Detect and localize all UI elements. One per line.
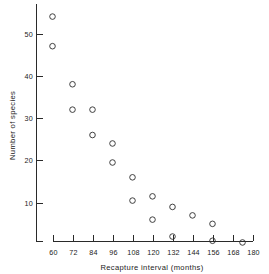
x-tick-label: 60 xyxy=(49,248,57,257)
data-point xyxy=(110,160,116,166)
y-tick-label: 30 xyxy=(25,114,33,123)
y-tick-label: 10 xyxy=(25,199,33,208)
data-point xyxy=(210,221,216,227)
plot-area: 1020304050 Number of species 60728496108… xyxy=(0,0,269,274)
x-tick-label: 96 xyxy=(109,248,117,257)
data-point xyxy=(70,81,76,87)
y-axis-line xyxy=(37,4,44,242)
x-tick-label: 72 xyxy=(69,248,77,257)
data-point xyxy=(210,238,216,244)
data-point xyxy=(50,43,56,49)
y-tick-label: 20 xyxy=(25,156,33,165)
data-point xyxy=(150,194,156,200)
data-point xyxy=(50,14,56,20)
x-tick-label: 120 xyxy=(147,248,160,257)
data-point xyxy=(90,107,96,113)
y-axis: 1020304050 Number of species xyxy=(8,4,43,242)
x-tick-label: 84 xyxy=(89,248,97,257)
data-point xyxy=(190,213,196,219)
data-point xyxy=(70,107,76,113)
y-tick-label: 50 xyxy=(25,30,33,39)
data-point xyxy=(110,141,116,147)
data-point xyxy=(130,175,136,181)
data-point xyxy=(90,132,96,138)
y-tick-group xyxy=(37,35,43,204)
x-tick-label-group: 60728496108120132144156168180 xyxy=(49,248,260,257)
x-tick-label: 144 xyxy=(187,248,200,257)
scatter-chart: 1020304050 Number of species 60728496108… xyxy=(0,0,269,274)
x-axis: 60728496108120132144156168180 Recapture … xyxy=(49,235,260,272)
x-tick-label: 180 xyxy=(247,248,260,257)
data-point xyxy=(150,217,156,223)
x-tick-label: 168 xyxy=(227,248,240,257)
x-tick-group xyxy=(54,235,254,241)
data-point xyxy=(170,234,176,240)
y-tick-label: 40 xyxy=(25,72,33,81)
data-point xyxy=(170,204,176,210)
y-axis-title: Number of species xyxy=(8,91,17,160)
data-point xyxy=(240,240,246,246)
x-tick-label: 108 xyxy=(127,248,140,257)
x-axis-title: Recapture interval (months) xyxy=(100,263,203,272)
x-tick-label: 156 xyxy=(207,248,220,257)
data-point xyxy=(130,198,136,204)
x-tick-label: 132 xyxy=(167,248,180,257)
data-point-group xyxy=(50,14,246,245)
y-tick-label-group: 1020304050 xyxy=(25,30,33,208)
